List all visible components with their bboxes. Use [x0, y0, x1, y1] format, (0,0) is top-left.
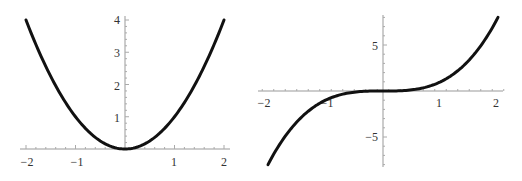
y-tick-label: 2: [114, 79, 120, 93]
parabola-plot: −2 −1 1 2 1 2 3 4: [20, 13, 230, 169]
x-tick-label: −2: [258, 96, 271, 110]
y-tick-label: 5: [372, 39, 378, 53]
x-tick-label: 2: [221, 155, 227, 169]
cubic-plot: −2 −1 1 2 5 −5: [258, 15, 504, 167]
y-tick-label: 3: [114, 46, 120, 60]
x-tick-label: −1: [71, 155, 84, 169]
y-tick-label: 1: [114, 111, 120, 125]
plots-figure: −2 −1 1 2 1 2 3 4 −2 −1 1 2 5 −5: [0, 0, 522, 181]
y-tick-label: 4: [114, 13, 120, 27]
x-tick-label: 1: [171, 155, 177, 169]
x-tick-label: 1: [436, 96, 442, 110]
x-tick-label: 2: [493, 96, 499, 110]
y-tick-label: −5: [365, 130, 378, 144]
x-tick-label: −2: [21, 155, 34, 169]
